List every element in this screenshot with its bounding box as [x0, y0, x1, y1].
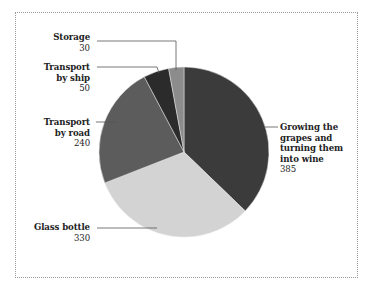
label-value: 240 [44, 138, 90, 149]
label-value: 30 [53, 43, 90, 54]
label-name: Transport [44, 62, 90, 73]
label-name: turning them [280, 143, 343, 154]
leader-transport-by-ship [97, 67, 159, 73]
leader-storage [97, 41, 176, 70]
label-transport-by-road: Transport by road 240 [44, 117, 90, 149]
label-value: 330 [34, 233, 90, 244]
label-name: grapes and [280, 133, 343, 144]
label-value: 50 [44, 83, 90, 94]
label-value: 385 [280, 164, 343, 175]
label-name: into wine [280, 154, 343, 165]
label-storage: Storage 30 [53, 32, 90, 53]
label-name: by road [44, 128, 90, 139]
label-transport-by-ship: Transport by ship 50 [44, 62, 90, 94]
label-name: Transport [44, 117, 90, 128]
label-name: by ship [44, 73, 90, 84]
label-name: Glass bottle [34, 222, 90, 233]
label-name: Storage [53, 32, 90, 43]
label-name: Growing the [280, 122, 343, 133]
label-growing-grapes: Growing the grapes and turning them into… [280, 122, 343, 175]
label-glass-bottle: Glass bottle 330 [34, 222, 90, 243]
